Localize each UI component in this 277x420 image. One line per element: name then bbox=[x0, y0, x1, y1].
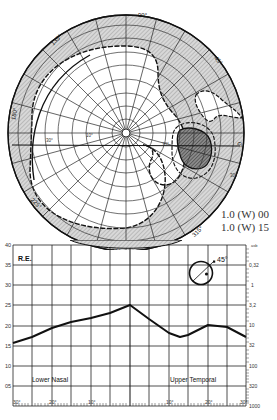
y-tick: 30 bbox=[5, 282, 11, 288]
y-tick: 05 bbox=[5, 383, 11, 389]
x-tick: 20° bbox=[205, 399, 213, 405]
isopter-legend-item: 1.0 (W) 00 bbox=[221, 208, 269, 221]
meridian-indicator-label: 45° bbox=[217, 256, 228, 263]
x-tick: 30° bbox=[13, 399, 21, 405]
meridian-indicator-icon bbox=[190, 261, 216, 285]
y-right-tick: 3,2 bbox=[249, 302, 256, 308]
ecc-label: 30° bbox=[230, 173, 237, 178]
label-90: 90° bbox=[138, 12, 148, 18]
y-tick: 10 bbox=[5, 363, 11, 369]
ecc-label: 10° bbox=[86, 133, 93, 138]
y-right-tick: 320 bbox=[249, 383, 258, 389]
eye-label: R.E. bbox=[18, 255, 32, 262]
y-right-tick: 0,32 bbox=[249, 262, 259, 268]
y-tick: 25 bbox=[5, 302, 11, 308]
y-right-tick: 1000 bbox=[249, 403, 260, 409]
y-right-tick: 32 bbox=[249, 342, 255, 348]
y-tick: 20 bbox=[5, 323, 11, 329]
x-tick: 10° bbox=[166, 399, 174, 405]
y-axis-right-labels: asb 0,32 1 3,2 10 32 100 320 1000 bbox=[249, 243, 260, 409]
ecc-label: 30° bbox=[46, 138, 53, 143]
ecc-label: 10° bbox=[162, 142, 169, 147]
region-label-upper-temporal: Upper Temporal bbox=[170, 376, 217, 384]
region-label-lower-nasal: Lower Nasal bbox=[32, 376, 69, 383]
y-tick: 15 bbox=[5, 343, 11, 349]
y-right-tick: 10 bbox=[249, 322, 255, 328]
profile-chart: 40 35 30 25 20 15 10 05 asb 0,32 1 3,2 1… bbox=[0, 240, 277, 420]
y-axis-left-labels: 40 35 30 25 20 15 10 05 bbox=[5, 242, 11, 389]
isopter-legend-item: 1.0 (W) 15 bbox=[221, 221, 269, 234]
y-right-tick: asb bbox=[251, 243, 258, 248]
x-tick: 20° bbox=[49, 399, 57, 405]
y-tick: 35 bbox=[5, 262, 11, 268]
y-right-tick: 1 bbox=[251, 282, 254, 288]
y-right-tick: 100 bbox=[249, 363, 258, 369]
y-tick: 40 bbox=[5, 242, 11, 248]
x-tick: 10° bbox=[88, 399, 96, 405]
x-tick: 30° bbox=[240, 399, 248, 405]
isopter-legend: 1.0 (W) 00 1.0 (W) 15 bbox=[221, 208, 269, 234]
